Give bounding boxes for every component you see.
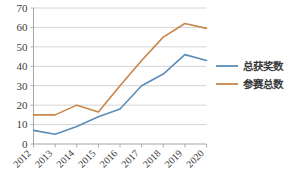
y-tick-label: 10 — [17, 118, 29, 130]
x-tick-label: 2014 — [54, 148, 76, 170]
x-tick-label: 2020 — [184, 148, 206, 170]
y-tick-label: 70 — [17, 2, 29, 14]
y-axis-tick-labels: 010203040506070 — [17, 2, 29, 150]
line-chart: 010203040506070 201220132014201520162017… — [0, 0, 290, 178]
y-tick-label: 40 — [17, 60, 29, 72]
x-tick-label: 2016 — [97, 148, 119, 170]
x-axis-tick-marks — [34, 144, 207, 148]
legend-label-1: 总获奖数 — [243, 60, 284, 72]
x-tick-label: 2017 — [119, 148, 141, 170]
y-tick-label: 60 — [17, 21, 29, 33]
x-tick-label: 2019 — [162, 148, 184, 170]
x-tick-label: 2018 — [141, 148, 163, 170]
chart-legend: 总获奖数参赛总数 — [216, 60, 284, 90]
series-lines-group — [34, 24, 207, 135]
x-tick-label: 2012 — [11, 148, 33, 170]
chart-container: 010203040506070 201220132014201520162017… — [0, 0, 290, 178]
x-tick-label: 2015 — [76, 148, 98, 170]
y-tick-label: 50 — [17, 41, 29, 53]
x-axis-tick-labels: 201220132014201520162017201820192020 — [11, 148, 206, 170]
y-tick-label: 20 — [17, 99, 29, 111]
y-tick-label: 30 — [17, 80, 29, 92]
x-tick-label: 2013 — [33, 148, 55, 170]
legend-label-2: 参赛总数 — [243, 78, 284, 90]
series-line-2 — [34, 24, 207, 115]
